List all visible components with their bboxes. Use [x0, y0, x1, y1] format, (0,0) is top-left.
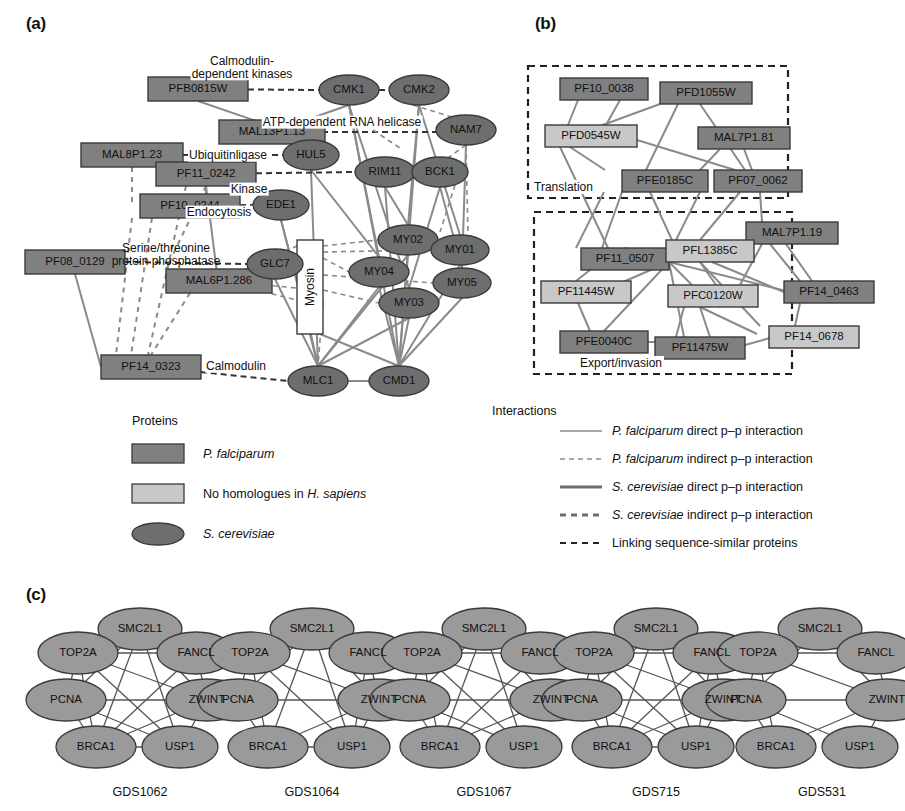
edge-label-kinase: Kinase: [230, 183, 269, 196]
edge-label-ubiquitinligase: Ubiquitinligase: [188, 149, 268, 162]
dataset-label-GDS531: GDS531: [798, 785, 846, 799]
panel-b-legend-lines: [560, 431, 602, 543]
panel-b-legend-item-pf-indirect: P. falciparum indirect p–p interaction: [612, 452, 813, 466]
group-label-translation: Translation: [532, 180, 595, 194]
panel-a-letter: (a): [26, 14, 46, 34]
panel-a-legend-item-no-homologues: No homologues in H. sapiens: [203, 487, 366, 501]
dataset-label-GDS1064: GDS1064: [285, 785, 340, 799]
edge-label-endocytosis: Endocytosis: [186, 206, 253, 219]
edge-label-atp-dependent-rna-helicase: ATP-dependent RNA helicase: [262, 116, 423, 129]
panel-b-legend-item-sc-indirect: S. cerevisiae indirect p–p interaction: [612, 508, 813, 522]
panel-b-legend-item-pf-direct: P. falciparum direct p–p interaction: [612, 424, 803, 438]
panel-a-legend-swatches: [132, 444, 184, 545]
panel-a-legend-item-s-cerevisiae: S. cerevisiae: [203, 527, 275, 541]
panel-c-network-GDS531: [706, 608, 905, 768]
dataset-label-GDS1062: GDS1062: [113, 785, 168, 799]
panel-a-legend-item-p-falciparum: P. falciparum: [203, 447, 274, 461]
node-Myosin[interactable]: Myosin: [303, 268, 317, 306]
edge-label-calmodulin-dependent-kinases: Calmodulin- dependent kinases: [191, 55, 294, 80]
panel-b-group-boxes: [528, 66, 792, 374]
edge-label-calmodulin: Calmodulin: [205, 360, 267, 373]
dataset-label-GDS1067: GDS1067: [457, 785, 512, 799]
dataset-label-GDS715: GDS715: [632, 785, 680, 799]
panel-b-legend-title: Interactions: [492, 404, 557, 418]
group-label-export-invasion: Export/invasion: [578, 356, 664, 370]
edge-label-serine-threonine-protein-phosphatase: Serine/threonine protein phosphatase: [111, 242, 222, 267]
panel-b-legend-item-linking: Linking sequence-similar proteins: [612, 536, 798, 550]
panel-c-letter: (c): [26, 585, 46, 605]
panel-b-legend-item-sc-direct: S. cerevisiae direct p–p interaction: [612, 480, 803, 494]
panel-b-letter: (b): [535, 14, 556, 34]
panel-a-legend-title: Proteins: [132, 414, 178, 428]
